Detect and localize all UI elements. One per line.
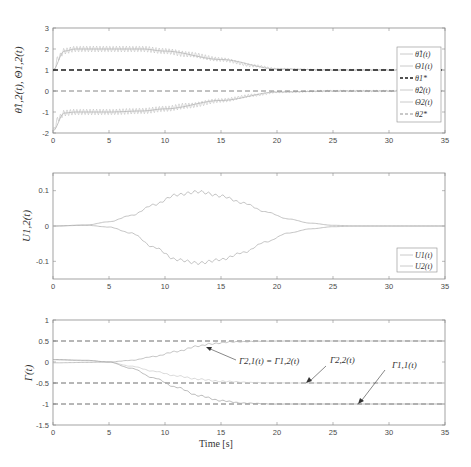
svg-text:-1: -1 — [42, 400, 49, 409]
bottom-ylabel: Γ(t) — [22, 364, 35, 382]
svg-text:3: 3 — [45, 24, 49, 33]
svg-text:20: 20 — [273, 428, 281, 437]
svg-text:10: 10 — [161, 136, 169, 145]
svg-text:30: 30 — [385, 428, 393, 437]
axes-box-bottom — [53, 320, 445, 425]
svg-text:5: 5 — [107, 136, 111, 145]
panel-middle: 05101520253035-0.100.1 U1,2(t) U1(t) U2(… — [20, 173, 449, 291]
top-curves — [53, 46, 445, 131]
annotation-label: Γ2,2(t) — [329, 355, 355, 365]
svg-text:20: 20 — [273, 282, 281, 291]
svg-text:25: 25 — [329, 136, 337, 145]
middle-legend: U1(t) U2(t) — [397, 248, 437, 272]
arrow-head-icon — [306, 377, 312, 383]
top-legend: θ̂1(t) Θ1(t) θ1* θ̂2(t) Θ2(t) θ2* — [397, 47, 441, 122]
bottom-curves — [53, 341, 445, 404]
svg-text:-1.5: -1.5 — [36, 421, 49, 430]
svg-text:15: 15 — [217, 136, 225, 145]
panel-bottom: 05101520253035-1.5-1-0.500.51 Γ(t) Time … — [22, 316, 449, 450]
svg-text:30: 30 — [385, 282, 393, 291]
arrow-line — [362, 370, 385, 400]
svg-text:0.5: 0.5 — [39, 337, 49, 346]
svg-text:0: 0 — [51, 428, 55, 437]
middle-ylabel: U1,2(t) — [20, 210, 33, 242]
svg-text:25: 25 — [329, 428, 337, 437]
svg-text:35: 35 — [441, 136, 449, 145]
svg-text:5: 5 — [107, 428, 111, 437]
svg-text:1: 1 — [45, 66, 49, 75]
svg-text:15: 15 — [217, 428, 225, 437]
legend-label-theta2star: θ2* — [415, 110, 427, 119]
bottom-axis-ticks: 05101520253035-1.5-1-0.500.51 — [36, 316, 449, 438]
svg-text:-1: -1 — [42, 108, 49, 117]
svg-text:5: 5 — [107, 282, 111, 291]
svg-text:35: 35 — [441, 282, 449, 291]
legend-label-theta1star: θ1* — [415, 74, 427, 83]
annotation-gamma22: Γ2,2(t) — [306, 355, 355, 383]
svg-text:0: 0 — [51, 136, 55, 145]
arrow-line — [310, 366, 326, 381]
annotation-label: Γ2,1(t) = Γ1,2(t) — [238, 356, 299, 366]
middle-axis-ticks: 05101520253035-0.100.1 — [36, 173, 449, 291]
svg-text:10: 10 — [161, 282, 169, 291]
svg-text:0: 0 — [45, 358, 49, 367]
legend-label-Theta2: Θ2(t) — [415, 98, 433, 107]
axes-box-top — [53, 28, 445, 133]
svg-text:0: 0 — [51, 282, 55, 291]
panel-top: 05101520253035-2-10123 θ̂1,2(t), Θ1,2(t)… — [12, 24, 449, 146]
bottom-xlabel: Time [s] — [199, 438, 233, 449]
top-axis-ticks: 05101520253035-2-10123 — [42, 24, 449, 146]
svg-text:1: 1 — [45, 316, 49, 325]
legend-label-Theta1: Θ1(t) — [415, 62, 433, 71]
svg-text:0: 0 — [45, 87, 49, 96]
legend-label-theta2hat: θ̂2(t) — [415, 86, 431, 95]
legend-label-theta1hat: θ̂1(t) — [415, 50, 431, 59]
svg-text:-0.1: -0.1 — [36, 257, 49, 266]
figure: 05101520253035-2-10123 θ̂1,2(t), Θ1,2(t)… — [0, 0, 471, 467]
svg-text:30: 30 — [385, 136, 393, 145]
svg-text:35: 35 — [441, 428, 449, 437]
annotation-gamma11: Γ1,1(t) — [358, 360, 417, 404]
legend-label-U1: U1(t) — [415, 251, 433, 260]
svg-text:10: 10 — [161, 428, 169, 437]
legend-label-U2: U2(t) — [415, 262, 433, 271]
svg-text:2: 2 — [45, 45, 49, 54]
svg-text:25: 25 — [329, 282, 337, 291]
annotation-label: Γ1,1(t) — [391, 360, 417, 370]
svg-text:20: 20 — [273, 136, 281, 145]
arrow-line — [208, 348, 236, 360]
svg-text:15: 15 — [217, 282, 225, 291]
svg-text:-2: -2 — [42, 129, 49, 138]
middle-curves — [53, 191, 445, 265]
top-ylabel: θ̂1,2(t), Θ1,2(t) — [12, 46, 25, 113]
svg-text:0.1: 0.1 — [39, 186, 49, 195]
annotation-gamma21: Γ2,1(t) = Γ1,2(t) — [206, 347, 299, 366]
svg-text:-0.5: -0.5 — [36, 379, 49, 388]
svg-text:0: 0 — [45, 222, 49, 231]
